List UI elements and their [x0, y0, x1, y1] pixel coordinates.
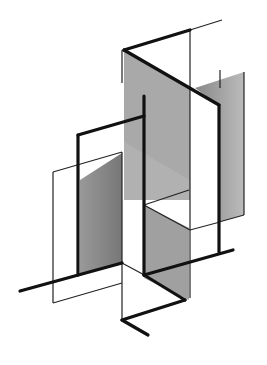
- left-panel: [80, 153, 122, 275]
- center-gray-panel: [124, 50, 190, 200]
- lower-center-panel: [144, 205, 189, 300]
- abstract-planes-drawing: [0, 0, 267, 365]
